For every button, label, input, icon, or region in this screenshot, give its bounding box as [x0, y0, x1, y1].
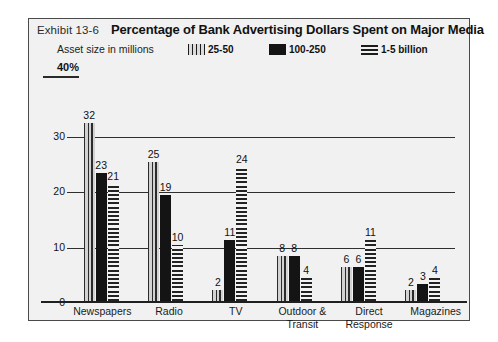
- bar-value-label: 24: [236, 153, 248, 165]
- bar-value-label: 2: [215, 276, 221, 288]
- plot-area: 3020100 322321251910211248846611234: [55, 81, 455, 303]
- bar-value-label: 4: [432, 264, 438, 276]
- bar-value-label: 8: [291, 242, 297, 254]
- bar-group: 6611: [341, 81, 376, 301]
- bar-group: 322321: [84, 81, 119, 301]
- bar: 6: [353, 267, 364, 300]
- legend-item-25-50: 25-50: [188, 42, 234, 56]
- bar-value-label: 2: [408, 276, 414, 288]
- bar: 3: [417, 284, 428, 301]
- bar-value-label: 32: [83, 109, 95, 121]
- legend-caption: Asset size in millions: [57, 43, 154, 55]
- bar-value-label: 19: [160, 181, 172, 193]
- chart-panel: Exhibit 13-6 Percentage of Bank Advertis…: [28, 18, 470, 321]
- bar: 8: [277, 256, 288, 300]
- bar-value-label: 10: [172, 231, 184, 243]
- bar-group: 234: [405, 81, 440, 301]
- legend-item-100-250: 100-250: [269, 42, 326, 56]
- x-axis-baseline: [41, 301, 467, 303]
- x-axis-label: DirectResponse: [336, 305, 403, 339]
- legend-item-1-5-billion: 1-5 billion: [361, 42, 428, 56]
- y-tick-label: 10: [33, 241, 65, 253]
- bar: 24: [236, 167, 247, 300]
- legend-swatch-horizontal-stripes-icon: [361, 44, 378, 55]
- bar-groups: 322321251910211248846611234: [69, 81, 455, 301]
- bar-group: 884: [277, 81, 312, 301]
- bar: 2: [212, 290, 223, 301]
- bar-group: 21124: [212, 81, 247, 301]
- legend-swatch-solid-icon: [269, 44, 286, 55]
- bar: 11: [365, 240, 376, 301]
- legend-label-100-250: 100-250: [289, 44, 326, 55]
- bar: 32: [84, 123, 95, 301]
- bar: 11: [224, 240, 235, 301]
- x-axis-label: TV: [202, 305, 269, 339]
- chart-title: Percentage of Bank Advertising Dollars S…: [111, 22, 484, 37]
- bar-value-label: 6: [344, 253, 350, 265]
- legend-label-25-50: 25-50: [208, 44, 234, 55]
- y-axis-top-label: 40%: [39, 57, 79, 78]
- bar: 21: [108, 184, 119, 301]
- bar-value-label: 4: [303, 264, 309, 276]
- x-axis-labels: NewspapersRadioTVOutdoor &TransitDirectR…: [69, 305, 469, 339]
- bar-value-label: 25: [148, 148, 160, 160]
- y-axis-top-rule: [43, 76, 79, 78]
- bar-group: 251910: [148, 81, 183, 301]
- bar: 8: [289, 256, 300, 300]
- bar: 23: [96, 173, 107, 301]
- bar-value-label: 6: [356, 253, 362, 265]
- bar: 19: [160, 195, 171, 300]
- bar-value-label: 11: [224, 226, 235, 238]
- legend-swatch-vertical-stripes-icon: [188, 44, 205, 55]
- bar: 6: [341, 267, 352, 300]
- bar-value-label: 23: [95, 159, 107, 171]
- exhibit-number: Exhibit 13-6: [37, 24, 99, 36]
- x-axis-label: Outdoor &Transit: [269, 305, 336, 339]
- x-axis-label: Newspapers: [69, 305, 136, 339]
- bar-value-label: 8: [279, 242, 285, 254]
- bar: 10: [172, 245, 183, 301]
- bar: 4: [301, 278, 312, 300]
- x-axis-label: Radio: [136, 305, 203, 339]
- bar-value-label: 11: [365, 226, 376, 238]
- legend-label-1-5-billion: 1-5 billion: [381, 44, 428, 55]
- bar: 25: [148, 162, 159, 301]
- legend-caption-wrap: Asset size in millions: [57, 42, 154, 56]
- bar: 4: [429, 278, 440, 300]
- bar-value-label: 3: [420, 270, 426, 282]
- bar-value-label: 21: [107, 170, 119, 182]
- x-axis-label: Magazines: [402, 305, 469, 339]
- y-tick-label: 30: [33, 130, 65, 142]
- bar: 2: [405, 290, 416, 301]
- y-axis-max-value: 40%: [57, 61, 79, 73]
- y-tick-label: 20: [33, 185, 65, 197]
